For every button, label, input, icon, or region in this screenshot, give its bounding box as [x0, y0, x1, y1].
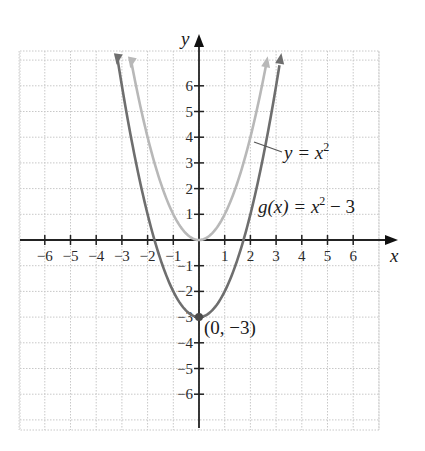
y-tick-label: 6 — [186, 78, 194, 94]
curve2-label-main: g(x) = x — [258, 196, 320, 218]
x-tick-label: 2 — [247, 248, 255, 264]
vertex-label: (0, −3) — [204, 317, 256, 339]
x-tick-label: 5 — [324, 248, 332, 264]
vertex-point — [195, 313, 203, 321]
x-tick-label: −2 — [140, 248, 156, 264]
y-tick-label: −6 — [177, 386, 193, 402]
x-axis-arrow-icon — [385, 235, 398, 245]
x-tick-label: 3 — [272, 248, 280, 264]
y-axis-label: y — [179, 28, 190, 49]
x-tick-label: −4 — [88, 248, 104, 264]
y-tick-label: 5 — [186, 104, 194, 120]
x-tick-label: −5 — [63, 248, 79, 264]
x-tick-label: −3 — [114, 248, 130, 264]
curve-y-equals-x-squared-arrow-icon — [261, 56, 270, 68]
curve2-label: g(x) = x2 − 3 — [258, 194, 355, 218]
curve1-label-exponent: 2 — [323, 140, 329, 154]
x-tick-label: 4 — [298, 248, 306, 264]
curve1-label-main: y = x — [282, 142, 324, 163]
y-axis-arrow-icon — [194, 34, 204, 47]
y-tick-label: −3 — [177, 309, 193, 325]
x-tick-label: 1 — [221, 248, 229, 264]
y-tick-label: 1 — [186, 206, 194, 222]
y-tick-label: −2 — [177, 283, 193, 299]
y-tick-label: 4 — [186, 129, 194, 145]
curve1-leader-line — [254, 142, 282, 152]
y-tick-label: −1 — [177, 258, 193, 274]
y-tick-label: 3 — [186, 155, 194, 171]
y-tick-label: 2 — [186, 181, 194, 197]
curve2-label-rest: − 3 — [325, 196, 355, 217]
x-tick-label: −6 — [37, 248, 53, 264]
y-tick-label: −4 — [177, 335, 193, 351]
x-tick-label: 6 — [349, 248, 357, 264]
y-tick-label: −5 — [177, 361, 193, 377]
function-graph: −6−5−4−3−2−1123456654321−1−2−3−4−5−6 y x… — [0, 0, 425, 451]
curve1-label: y = x2 — [282, 140, 329, 163]
x-axis-label: x — [389, 245, 399, 266]
